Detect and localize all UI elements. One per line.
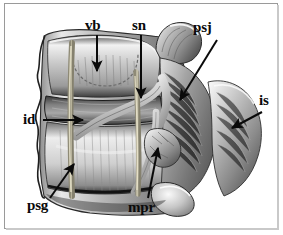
label-sn: sn: [132, 18, 146, 33]
label-is: is: [259, 93, 269, 108]
label-psj: psj: [193, 20, 212, 35]
label-vb: vb: [85, 18, 100, 33]
figure-root: vb sn psj is id psg mpr: [0, 0, 283, 235]
upper-vertebral-body: [48, 35, 160, 97]
figure-frame: vb sn psj is id psg mpr: [4, 3, 278, 229]
lower-vertebral-body: [45, 122, 164, 194]
label-psg: psg: [27, 198, 48, 213]
label-id: id: [23, 112, 35, 127]
lateral-articular-mass: [208, 81, 261, 196]
label-mpr: mpr: [128, 200, 155, 215]
